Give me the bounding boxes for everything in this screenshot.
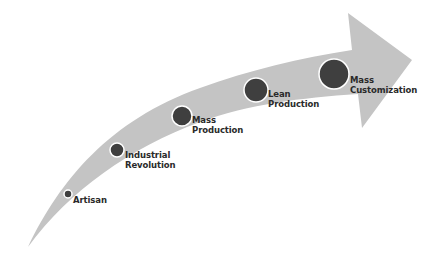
label-line1: Industrial xyxy=(125,150,176,160)
label-mass-production: Mass Production xyxy=(192,115,243,135)
label-line2: Revolution xyxy=(125,160,176,170)
node-artisan xyxy=(64,190,72,198)
label-line2: Production xyxy=(192,125,243,135)
label-line1: Mass xyxy=(192,115,243,125)
label-mass-customization: Mass Customization xyxy=(350,75,417,95)
label-artisan: Artisan xyxy=(73,195,107,205)
label-line1: Lean xyxy=(268,89,319,99)
label-industrial-revolution: Industrial Revolution xyxy=(125,150,176,170)
label-line1: Artisan xyxy=(73,195,107,205)
node-mass-production xyxy=(172,106,192,126)
node-mass-customization xyxy=(319,59,349,89)
node-lean-production xyxy=(244,78,268,102)
label-lean-production: Lean Production xyxy=(268,89,319,109)
node-industrial-revolution xyxy=(110,143,124,157)
label-line2: Customization xyxy=(350,85,417,95)
label-line2: Production xyxy=(268,99,319,109)
label-line1: Mass xyxy=(350,75,417,85)
evolution-diagram: Artisan Industrial Revolution Mass Produ… xyxy=(0,0,433,257)
